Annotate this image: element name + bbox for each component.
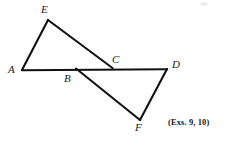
segment-FD [140,69,167,120]
geometry-figure: E A B C D F (Exs. 9, 10) [0,0,227,142]
vertex-label-f: F [135,122,142,133]
vertex-label-b: B [64,73,71,84]
vertex-label-e: E [41,4,48,15]
segment-BF [76,69,140,121]
vertex-label-d: D [172,59,180,70]
segment-AE [22,20,48,70]
segment-AD [22,69,167,70]
vertex-label-c: C [112,54,119,65]
exercise-caption: (Exs. 9, 10) [168,118,209,127]
segment-EC [48,20,113,68]
vertex-label-a: A [8,64,15,75]
